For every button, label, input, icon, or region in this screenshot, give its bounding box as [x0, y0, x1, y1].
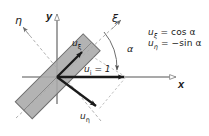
eq2-lhs-subscript: η — [154, 43, 158, 51]
u-xi-subscript: ξ — [78, 43, 82, 51]
vector-u-xi-label: uξ — [72, 39, 81, 50]
u-i-value: = 1 — [94, 64, 110, 74]
coordinate-rotation-diagram: y x ξ η α uξ uη ui = 1 uξ = cos α uη = −… — [0, 0, 209, 136]
vector-u-eta — [57, 77, 96, 106]
y-axis-label: y — [46, 11, 52, 22]
eta-axis-label: η — [15, 15, 22, 26]
x-axis-label: x — [178, 79, 184, 90]
vector-u-eta-label: uη — [80, 112, 90, 123]
equation-u-eta: uη = −sin α — [148, 39, 201, 50]
eq2-rhs: = −sin α — [161, 38, 201, 48]
vector-u-i-label: ui = 1 — [84, 65, 111, 76]
u-i-subscript: i — [90, 69, 92, 77]
eq1-rhs: = cos α — [161, 27, 196, 37]
u-eta-subscript: η — [86, 116, 90, 124]
xi-axis-label: ξ — [112, 13, 118, 24]
alpha-angle-label: α — [127, 44, 133, 54]
